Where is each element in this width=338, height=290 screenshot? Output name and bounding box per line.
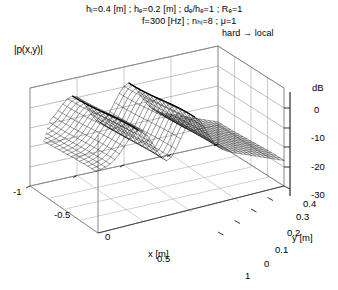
x-tick-label: -0.5 bbox=[54, 209, 70, 220]
z-tick-label: 0 bbox=[314, 104, 319, 115]
x-tick-label: 0 bbox=[105, 231, 110, 242]
y-tick-label: 0.3 bbox=[296, 211, 309, 222]
header-line-1: hᵢ=0.4 [m] ; hₑ=0.2 [m] ; dₑ/hₑ=1 ; Rₑ=1 bbox=[86, 4, 242, 14]
y-tick-label: 0.4 bbox=[303, 198, 316, 209]
gridlines-floor bbox=[30, 155, 268, 234]
z-axis-unit-label: dB bbox=[312, 82, 324, 93]
y-tick-label: 0 bbox=[264, 258, 269, 269]
figure-3d-surface-plot: hᵢ=0.4 [m] ; hₑ=0.2 [m] ; dₑ/hₑ=1 ; Rₑ=1… bbox=[0, 0, 338, 290]
z-tick-label: -10 bbox=[311, 132, 325, 143]
y-tick-label: 0.1 bbox=[275, 244, 288, 255]
x-tick-label: 1 bbox=[245, 270, 250, 281]
z-axis-quantity-label: |p(x,y)| bbox=[14, 44, 43, 55]
header-line-3: hard → local bbox=[222, 28, 274, 38]
z-tick-label: -20 bbox=[311, 161, 325, 172]
x-tick-label: -1 bbox=[13, 186, 21, 197]
surface-wireframe-mesh bbox=[30, 83, 284, 171]
x-tick-label: 0.5 bbox=[157, 253, 170, 264]
axis-box bbox=[30, 46, 284, 233]
header-line-2: f=300 [Hz] ; nₕᵢ=8 ; μ=1 bbox=[142, 16, 236, 26]
y-tick-label: 0.2 bbox=[287, 227, 300, 238]
